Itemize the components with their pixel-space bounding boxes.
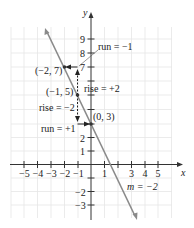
point-c xyxy=(89,122,93,126)
tick-label: −4 xyxy=(33,168,44,179)
point-b xyxy=(76,93,80,97)
point-c-label: (0, 3) xyxy=(93,111,115,123)
run-pos-label: run = +1 xyxy=(41,123,76,134)
tick-label: 1 xyxy=(102,168,107,179)
slope-label: m = −2 xyxy=(127,181,158,192)
y-axis-arrow-icon xyxy=(89,12,94,18)
tick-label: −3 xyxy=(46,168,57,179)
tick-label: −2 xyxy=(75,187,86,198)
run-neg-label: run = −1 xyxy=(98,41,133,52)
x-axis-label: x xyxy=(180,167,186,178)
y-axis-label: y xyxy=(82,7,88,18)
tick-label: 5 xyxy=(156,168,161,179)
tick-label: 4 xyxy=(143,168,148,179)
tick-label: 3 xyxy=(129,168,134,179)
x-axis xyxy=(10,161,183,168)
rise-neg-arrow-icon xyxy=(75,116,80,122)
point-a-label: (−2, 7) xyxy=(35,65,62,77)
tick-label: 7 xyxy=(80,62,85,73)
tick-label: −3 xyxy=(75,200,86,211)
tick-label: 9 xyxy=(80,34,85,45)
x-tick-labels: −5 −4 −3 −2 −1 1 3 4 5 x xyxy=(19,167,186,179)
point-b-label: (−1, 5) xyxy=(46,86,73,98)
run-pos-arrow-icon xyxy=(84,122,90,127)
tick-label: 2 xyxy=(80,133,85,144)
tick-label: −2 xyxy=(60,168,71,179)
graph: −5 −4 −3 −2 −1 1 3 4 5 x y 9 8 7 2 1 −2 … xyxy=(0,0,194,228)
rise-neg-label: rise = −2 xyxy=(39,102,75,113)
rise-pos-label: rise = +2 xyxy=(84,83,120,94)
tick-label: 1 xyxy=(80,146,85,157)
y-tick-labels: y 9 8 7 2 1 −2 −3 xyxy=(75,7,88,211)
tick-label: −5 xyxy=(19,168,30,179)
tick-label: −1 xyxy=(73,168,84,179)
tick-label: 8 xyxy=(80,48,85,59)
point-a xyxy=(63,65,67,69)
